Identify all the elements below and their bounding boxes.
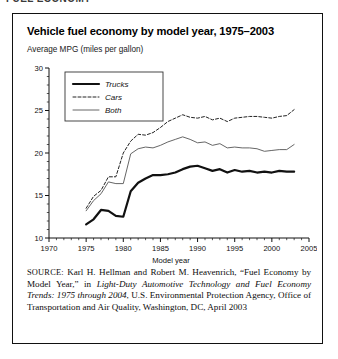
series-line-cars	[86, 110, 294, 209]
y-tick-label: 10	[35, 234, 43, 243]
source-label: SOURCE:	[27, 268, 64, 277]
clipped-header-text: FUEL ECONOMY	[6, 0, 91, 4]
x-tick-label: 2000	[263, 244, 280, 253]
series-line-trucks	[86, 166, 294, 225]
legend-label-trucks: Trucks	[105, 80, 128, 89]
x-tick-label: 1975	[78, 244, 95, 253]
source-note: SOURCE: Karl H. Hellman and Robert M. He…	[27, 267, 311, 313]
line-chart-svg: 1015202530197019751980198519901995200020…	[21, 62, 317, 267]
x-tick-label: 1985	[152, 244, 169, 253]
y-tick-label: 15	[35, 191, 43, 200]
y-tick-label: 20	[35, 149, 43, 158]
y-tick-label: 30	[35, 64, 43, 73]
x-axis-title: Model year	[152, 256, 190, 265]
figure-container: Vehicle fuel economy by model year, 1975…	[12, 13, 323, 344]
figure-title: Vehicle fuel economy by model year, 1975…	[27, 25, 274, 37]
chart-legend: TrucksCarsBoth	[65, 72, 163, 121]
chart-series	[86, 110, 294, 225]
series-line-both	[86, 137, 294, 211]
x-tick-label: 2005	[301, 244, 317, 253]
y-tick-label: 25	[35, 106, 43, 115]
x-tick-label: 1970	[41, 244, 58, 253]
chart-plot-area: 1015202530197019751980198519901995200020…	[21, 62, 317, 267]
legend-label-cars: Cars	[105, 93, 122, 102]
x-tick-label: 1990	[189, 244, 206, 253]
figure-subtitle: Average MPG (miles per gallon)	[27, 45, 143, 54]
legend-label-both: Both	[105, 106, 122, 115]
x-tick-label: 1980	[115, 244, 132, 253]
x-tick-label: 1995	[226, 244, 243, 253]
clipped-page-header: FUEL ECONOMY	[0, 0, 338, 11]
